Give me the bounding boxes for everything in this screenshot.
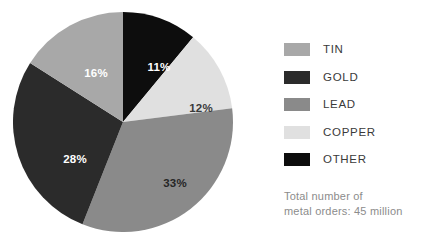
pie-chart-svg: 11%12%33%28%16% [13,12,233,232]
legend-swatch-other [284,153,310,166]
legend-swatch-tin [284,43,310,56]
legend-label-lead: LEAD [323,98,356,111]
total-orders-note-line-1: Total number of [284,189,436,204]
legend-item-other[interactable]: OTHER [284,152,434,167]
legend-swatch-copper [284,126,310,139]
total-orders-note: Total number of metal orders: 45 million [284,189,436,219]
legend-label-other: OTHER [323,153,367,166]
total-orders-note-line-2: metal orders: 45 million [284,204,436,219]
legend-label-gold: GOLD [323,71,358,84]
legend-item-gold[interactable]: GOLD [284,70,434,85]
pie-slice-value-other: 11% [148,61,171,73]
pie-slice-value-gold: 28% [63,153,87,165]
legend-item-tin[interactable]: TIN [284,42,434,57]
legend-swatch-lead [284,98,310,111]
legend-item-copper[interactable]: COPPER [284,125,434,140]
pie-chart: 11%12%33%28%16% [13,12,233,232]
pie-chart-figure: 11%12%33%28%16% TINGOLDLEADCOPPEROTHER T… [0,0,438,238]
pie-slice-value-tin: 16% [84,67,108,79]
pie-slice-group [13,12,233,232]
legend-label-tin: TIN [323,43,344,56]
legend-label-copper: COPPER [323,126,376,139]
legend: TINGOLDLEADCOPPEROTHER [284,42,434,180]
legend-item-lead[interactable]: LEAD [284,97,434,112]
legend-swatch-gold [284,71,310,84]
pie-slice-value-copper: 12% [189,102,213,114]
pie-slice-value-lead: 33% [163,177,187,189]
